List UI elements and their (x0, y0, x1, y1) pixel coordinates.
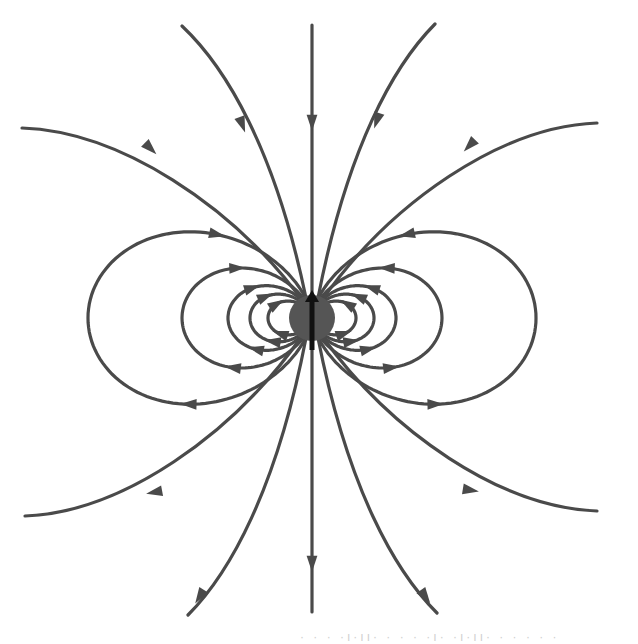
open-field-line-lower-left-wide (25, 336, 302, 516)
field-arrowhead-icon (416, 587, 430, 603)
open-field-line-upper-left-wide (22, 128, 302, 300)
field-arrowhead-icon (464, 136, 479, 151)
field-arrowhead-icon (364, 285, 381, 295)
field-arrowhead-icon (359, 346, 376, 356)
field-arrowhead-icon (399, 228, 416, 239)
cropped-caption-text: · · · ·ı·ıı· · · · ·ı· ·ı·ıı· · · · · · (300, 630, 560, 644)
closed-field-loop (182, 268, 304, 368)
field-arrowhead-icon (229, 263, 245, 274)
field-arrowhead-icon (307, 115, 318, 131)
field-arrowhead-icon (462, 484, 479, 495)
field-arrowhead-icon (379, 263, 395, 274)
closed-field-loop (88, 232, 306, 404)
field-arrowhead-icon (225, 363, 242, 374)
open-field-line-upper-right-steep (318, 24, 435, 298)
closed-field-loop (318, 232, 536, 404)
open-field-line-lower-right-wide (322, 336, 597, 511)
field-arrowhead-icon (307, 556, 318, 572)
field-arrowhead-icon (427, 399, 443, 410)
open-field-line-lower-right-steep (318, 338, 437, 613)
field-arrowhead-icon (383, 363, 400, 374)
open-field-line-upper-right-wide (322, 123, 597, 300)
field-arrowhead-icon (141, 139, 156, 154)
field-arrowhead-icon (208, 228, 225, 239)
open-field-line-lower-left-steep (188, 338, 306, 615)
field-arrowhead-icon (374, 111, 384, 128)
field-arrowhead-icon (234, 115, 245, 132)
field-arrowhead-icon (180, 399, 196, 410)
field-arrowhead-icon (146, 485, 163, 496)
field-arrowhead-icon (248, 346, 265, 356)
open-field-line-upper-left-steep (182, 26, 306, 298)
field-arrowhead-icon (243, 285, 260, 295)
field-direction-arrows (141, 111, 479, 603)
closed-field-loop (320, 268, 442, 368)
